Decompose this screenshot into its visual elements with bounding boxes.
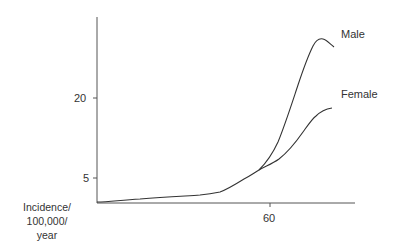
shared-curve: [97, 170, 259, 202]
male-curve: [259, 39, 334, 170]
y-axis-title: Incidence/ 100,000/ year: [12, 200, 82, 242]
x-tick-label-60: 60: [263, 212, 275, 224]
y-axis-title-line-3: year: [12, 228, 82, 242]
y-tick-label-5: 5: [83, 172, 89, 184]
female-label: Female: [341, 88, 378, 100]
y-tick-label-20: 20: [74, 92, 86, 104]
male-label: Male: [341, 28, 365, 40]
female-curve: [259, 108, 332, 170]
y-axis-title-line-2: 100,000/: [12, 214, 82, 228]
y-axis-title-line-1: Incidence/: [12, 200, 82, 214]
